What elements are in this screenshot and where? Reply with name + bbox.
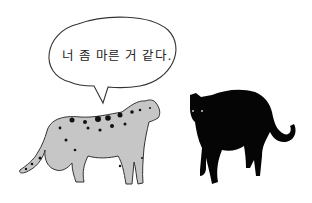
black-panther-figure: [190, 90, 296, 184]
panther-eye: [201, 110, 203, 112]
cheetah-figure: [20, 100, 160, 184]
panther-eye: [192, 110, 194, 112]
illustration-canvas: [0, 0, 312, 203]
speech-bubble-text: 너 좀 마른 거 같다.: [62, 45, 172, 64]
comic-scene: 너 좀 마른 거 같다.: [0, 0, 312, 203]
